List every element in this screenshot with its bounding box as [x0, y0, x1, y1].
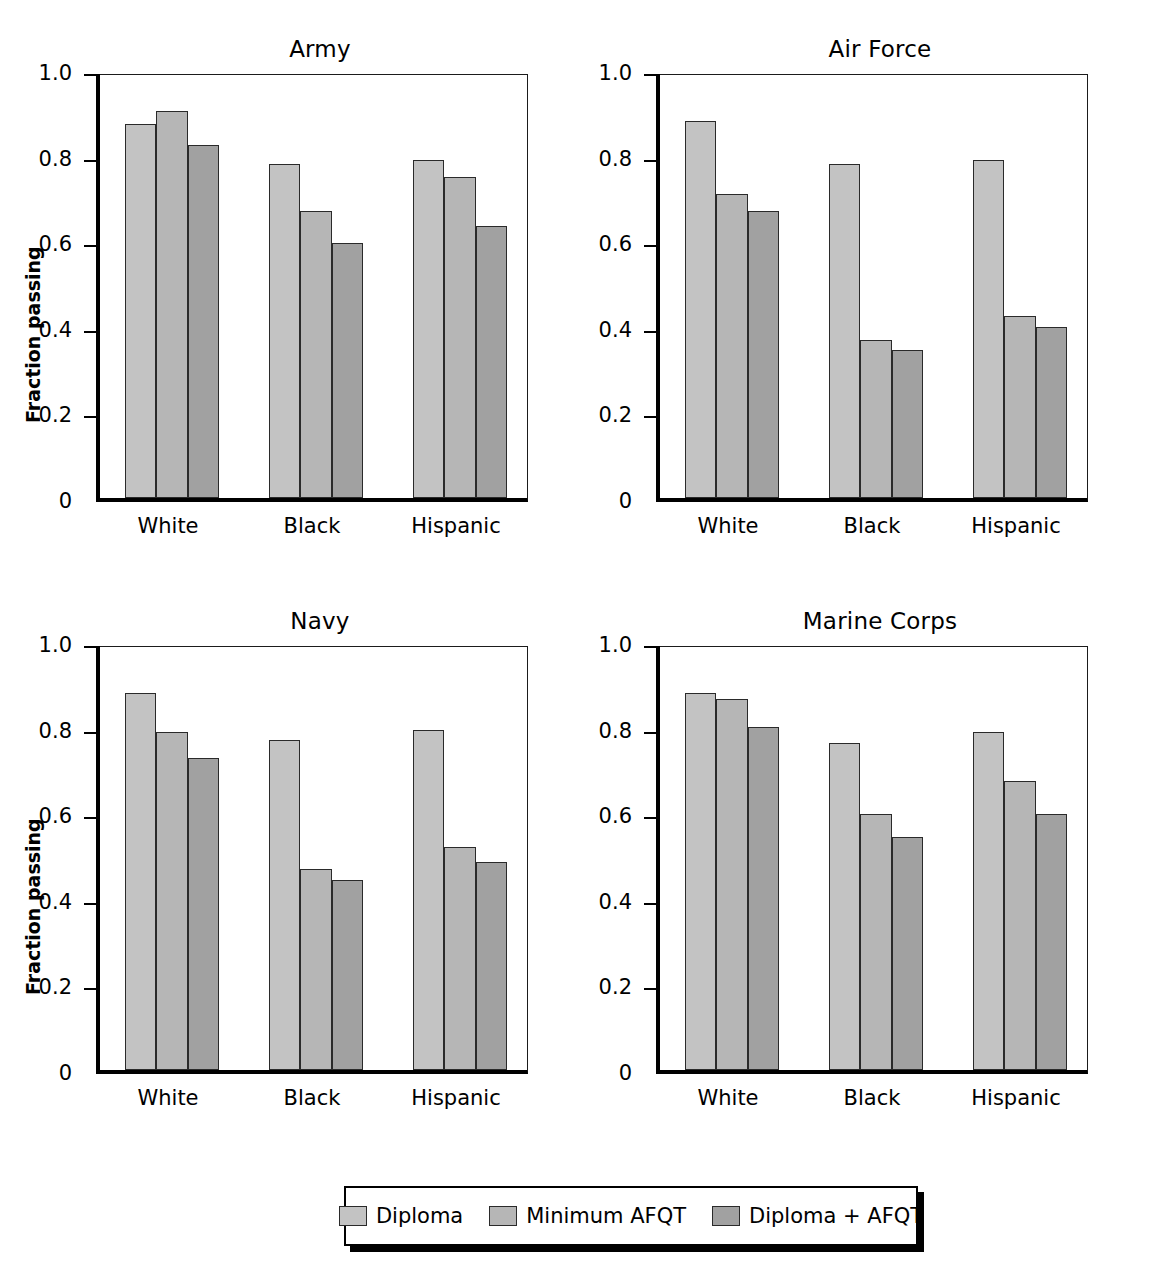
y-axis-tick-label: 0.6 [558, 234, 632, 255]
y-axis-tick-label: 0.6 [0, 234, 72, 255]
panel-navy: Navy Fraction passing 1.00.80.60.40.20Wh… [0, 590, 588, 1170]
bar [1004, 316, 1036, 498]
bar-group-container [660, 647, 1087, 1070]
plot-area [96, 646, 528, 1074]
x-axis-tick-label: White [656, 514, 800, 538]
bar [892, 837, 924, 1070]
legend-label: Diploma + AFQT [749, 1206, 923, 1227]
y-axis-tick [84, 903, 100, 905]
legend-swatch-icon [489, 1206, 517, 1226]
x-axis-tick-label: Black [240, 1086, 384, 1110]
y-axis-tick [644, 331, 660, 333]
x-axis-tick-label: White [656, 1086, 800, 1110]
panel-marine-corps: Marine Corps 1.00.80.60.40.20WhiteBlackH… [560, 590, 1148, 1170]
bar [716, 194, 748, 498]
bar [829, 743, 861, 1070]
y-axis-tick [644, 903, 660, 905]
y-axis-tick-label: 0.8 [558, 721, 632, 742]
y-axis-tick-label: 0.4 [0, 892, 72, 913]
y-axis-tick-label: 0.4 [0, 320, 72, 341]
bar [476, 226, 508, 498]
x-axis-tick-label: Black [800, 514, 944, 538]
bar [300, 869, 332, 1070]
y-axis-tick [84, 988, 100, 990]
y-axis-tick [84, 646, 100, 648]
y-axis-tick [84, 817, 100, 819]
panel-title: Navy [70, 608, 570, 634]
bar [1036, 814, 1068, 1070]
bar [1036, 327, 1068, 498]
y-axis-tick [644, 732, 660, 734]
legend-entry: Diploma [339, 1206, 463, 1227]
y-axis-tick-label: 0.2 [0, 405, 72, 426]
bar [269, 740, 301, 1070]
bar [269, 164, 301, 498]
bar-group-container [660, 75, 1087, 498]
bar [125, 693, 157, 1070]
y-axis-tick-label: 0 [558, 1063, 632, 1084]
bar [860, 340, 892, 498]
figure-multi-panel-bar-chart: Army Fraction passing 1.00.80.60.40.20Wh… [0, 0, 1176, 1276]
y-axis-tick-label: 1.0 [558, 63, 632, 84]
chart-legend: DiplomaMinimum AFQTDiploma + AFQT [344, 1186, 918, 1246]
y-axis-tick-label: 1.0 [0, 63, 72, 84]
y-axis-tick-label: 0.6 [558, 806, 632, 827]
x-axis-tick-label: Hispanic [944, 514, 1088, 538]
x-axis-tick-label: Hispanic [384, 1086, 528, 1110]
y-axis-tick [84, 245, 100, 247]
y-axis-tick [84, 74, 100, 76]
bar [476, 862, 508, 1070]
bar [1004, 781, 1036, 1070]
y-axis-tick-label: 0 [0, 1063, 72, 1084]
legend-label: Minimum AFQT [526, 1206, 686, 1227]
bar-group-container [100, 75, 527, 498]
y-axis-tick-label: 0.8 [0, 149, 72, 170]
bar [685, 121, 717, 498]
panel-title: Army [70, 36, 570, 62]
bar [716, 699, 748, 1071]
legend-entry: Minimum AFQT [489, 1206, 686, 1227]
bar [332, 243, 364, 498]
plot-area [656, 74, 1088, 502]
y-axis-tick [644, 245, 660, 247]
legend-entry: Diploma + AFQT [712, 1206, 923, 1227]
bar [332, 880, 364, 1070]
y-axis-tick-label: 1.0 [558, 635, 632, 656]
y-axis-tick-label: 0.8 [558, 149, 632, 170]
panel-army: Army Fraction passing 1.00.80.60.40.20Wh… [0, 18, 588, 598]
bar [156, 111, 188, 498]
bar [125, 124, 157, 499]
y-axis-tick [644, 646, 660, 648]
plot-area [96, 74, 528, 502]
y-axis-tick [84, 416, 100, 418]
x-axis-tick-label: Hispanic [944, 1086, 1088, 1110]
panel-title: Air Force [630, 36, 1130, 62]
panel-title: Marine Corps [630, 608, 1130, 634]
y-axis-tick-label: 0.2 [558, 405, 632, 426]
y-axis-tick [644, 74, 660, 76]
bar [156, 732, 188, 1070]
y-axis-tick-label: 0.4 [558, 892, 632, 913]
legend-swatch-icon [712, 1206, 740, 1226]
x-axis-tick-label: Black [240, 514, 384, 538]
y-axis-tick-label: 0.2 [0, 977, 72, 998]
bar [188, 145, 220, 498]
bar [444, 847, 476, 1070]
x-axis-tick-label: Hispanic [384, 514, 528, 538]
x-axis-tick-label: Black [800, 1086, 944, 1110]
bar [413, 730, 445, 1070]
bar [748, 727, 780, 1070]
bar [413, 160, 445, 498]
y-axis-tick [644, 416, 660, 418]
panel-air-force: Air Force 1.00.80.60.40.20WhiteBlackHisp… [560, 18, 1148, 598]
y-axis-tick-label: 0.8 [0, 721, 72, 742]
y-axis-tick-label: 0 [558, 491, 632, 512]
y-axis-tick-label: 0.2 [558, 977, 632, 998]
y-axis-tick [84, 732, 100, 734]
y-axis-tick-label: 0.6 [0, 806, 72, 827]
bar [973, 160, 1005, 498]
x-axis-tick-label: White [96, 1086, 240, 1110]
bar [188, 758, 220, 1070]
y-axis-tick [644, 160, 660, 162]
bar [860, 814, 892, 1070]
